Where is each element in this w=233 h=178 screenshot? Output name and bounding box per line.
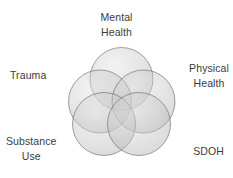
label-sdoh-line-1: SDOH [193, 144, 224, 159]
label-physical-health: Physical Health [189, 61, 229, 91]
circle-group [69, 48, 176, 156]
label-substance-use-line-2: Use [6, 149, 57, 164]
label-substance-use: Substance Use [6, 134, 57, 164]
circle-sdoh [108, 93, 171, 156]
label-substance-use-line-1: Substance [6, 134, 57, 149]
label-trauma: Trauma [10, 68, 46, 83]
rosette-diagram: Mental Health Physical Health SDOH Subst… [0, 0, 233, 178]
label-trauma-line-1: Trauma [10, 68, 46, 83]
label-physical-health-line-2: Health [189, 76, 229, 91]
label-mental-health-line-2: Health [0, 25, 233, 40]
label-mental-health: Mental Health [0, 10, 233, 40]
label-mental-health-line-1: Mental [0, 10, 233, 25]
label-sdoh: SDOH [193, 144, 224, 159]
label-physical-health-line-1: Physical [189, 61, 229, 76]
